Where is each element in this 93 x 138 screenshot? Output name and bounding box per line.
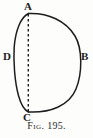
vertex-label-a: A	[24, 1, 32, 12]
figure-container: A B C D Fig. 195.	[0, 0, 93, 138]
minor-arc-adc-path	[14, 14, 29, 113]
vertex-label-d: D	[3, 51, 11, 62]
figure-caption-prefix: Fig.	[27, 120, 44, 131]
geometry-diagram	[0, 0, 93, 138]
figure-caption-number: 195.	[47, 120, 65, 131]
vertex-label-b: B	[81, 51, 88, 62]
figure-caption: Fig. 195.	[0, 120, 93, 132]
major-arc-abc-path	[29, 13, 81, 112]
